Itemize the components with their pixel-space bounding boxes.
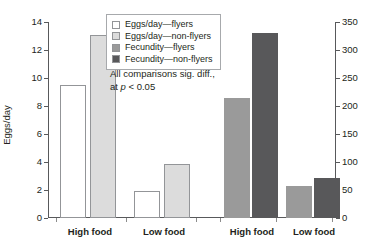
y-tick-left	[44, 134, 48, 135]
significance-annotation: All comparisons sig. diff., at p < 0.05	[110, 68, 215, 93]
x-tick	[56, 218, 57, 222]
legend-label: Fecundity—non-flyers	[125, 55, 213, 64]
y-tick-left	[44, 162, 48, 163]
y-tick-right	[336, 106, 340, 107]
annotation-suffix: < 0.05	[126, 81, 155, 92]
y-tick-right	[336, 50, 340, 51]
y-tick-right	[336, 162, 340, 163]
legend-swatch-icon	[112, 55, 120, 63]
y-tick-left	[44, 106, 48, 107]
y-tick-label-right: 50	[342, 185, 353, 195]
legend-item: Eggs/day—non-flyers	[112, 31, 213, 43]
x-tick	[276, 218, 277, 222]
y-tick-label-right: 250	[342, 73, 358, 83]
annotation-line-2: at p < 0.05	[110, 81, 215, 94]
bar	[164, 164, 190, 218]
y-tick-label-right: 0	[342, 213, 347, 223]
legend-item: Fecundity—flyers	[112, 42, 213, 54]
legend-label: Eggs/day—non-flyers	[125, 32, 211, 41]
annotation-prefix: at	[110, 81, 121, 92]
legend-swatch-icon	[112, 21, 120, 29]
legend-label: Fecundity—flyers	[125, 43, 195, 52]
bar	[252, 33, 278, 218]
y-tick-label-left: 2	[37, 185, 42, 195]
y-tick-label-right: 350	[342, 17, 358, 27]
y-tick-label-right: 100	[342, 157, 358, 167]
y-tick-right	[336, 78, 340, 79]
y-axis-left-spine	[48, 22, 49, 218]
legend-swatch-icon	[112, 44, 120, 52]
y-tick-right	[336, 134, 340, 135]
y-axis-left-title: Eggs/day	[1, 105, 12, 145]
y-tick-left	[44, 22, 48, 23]
legend-swatch-icon	[112, 32, 120, 40]
x-tick	[196, 218, 197, 222]
x-axis-label: Low food	[143, 226, 185, 237]
x-tick	[220, 218, 221, 222]
y-tick-label-left: 10	[31, 73, 42, 83]
bar	[314, 178, 340, 218]
y-tick-label-left: 12	[31, 45, 42, 55]
y-tick-left	[44, 78, 48, 79]
x-axis-label: High food	[230, 226, 274, 237]
x-tick	[126, 218, 127, 222]
x-tick	[332, 218, 333, 222]
y-tick-label-left: 4	[37, 157, 42, 167]
legend-label: Eggs/day—flyers	[125, 20, 193, 29]
bar	[134, 191, 160, 218]
bar	[224, 98, 250, 218]
legend-item: Fecundity—non-flyers	[112, 54, 213, 66]
y-tick-label-left: 6	[37, 129, 42, 139]
chart-legend: Eggs/day—flyersEggs/day—non-flyersFecund…	[106, 14, 221, 70]
y-tick-label-left: 14	[31, 17, 42, 27]
x-axis-label: High food	[68, 226, 112, 237]
y-tick-right	[336, 218, 340, 219]
y-tick-left	[44, 218, 48, 219]
y-tick-label-left: 0	[37, 213, 42, 223]
y-tick-label-right: 300	[342, 45, 358, 55]
y-tick-label-right: 150	[342, 129, 358, 139]
y-tick-right	[336, 22, 340, 23]
chart-figure: Eggs/day Number of eggs 02468101214 0501…	[0, 0, 379, 249]
bar	[286, 186, 312, 218]
legend-item: Eggs/day—flyers	[112, 19, 213, 31]
y-tick-left	[44, 190, 48, 191]
annotation-line-1: All comparisons sig. diff.,	[110, 68, 215, 81]
x-axis-label: Low food	[293, 226, 335, 237]
y-tick-label-right: 200	[342, 101, 358, 111]
y-tick-label-left: 8	[37, 101, 42, 111]
y-tick-left	[44, 50, 48, 51]
bar	[60, 85, 86, 218]
